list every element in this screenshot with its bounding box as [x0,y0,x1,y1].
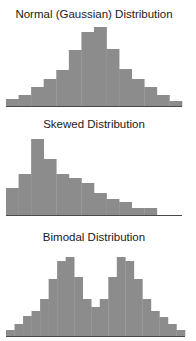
histogram-bar [81,183,94,215]
histogram-bar [144,87,157,106]
histogram-bar [44,79,57,106]
bimodal-histogram [6,257,185,337]
histogram-bar [132,79,145,106]
histogram-bar [19,174,32,215]
histogram-bar [119,69,132,106]
histogram-bar [23,316,32,336]
histogram-bar [94,193,107,215]
normal-histogram [6,27,182,107]
histogram-bar [74,277,83,336]
histogram-bar [159,317,168,336]
histogram-bar [83,299,92,336]
histogram-bar [108,277,117,336]
histogram-bar [56,70,69,106]
histogram-bar [31,87,44,106]
histogram-bar [142,299,151,336]
histogram-bar [56,174,69,215]
histogram-bar [132,208,145,215]
histogram-bar [31,139,44,215]
histogram-bar [117,257,126,336]
histogram-bar [69,50,82,106]
histogram-bar [169,101,182,106]
histogram-bar [144,208,157,215]
histogram-bar [6,99,19,106]
histogram-bar [44,159,57,215]
histogram-bar [91,307,100,336]
histogram-bar [6,330,15,336]
histogram-bar [40,299,49,336]
histogram-bar [157,95,170,106]
histogram-bar [49,279,58,336]
histogram-plots [0,0,196,341]
histogram-bar [134,279,143,336]
histogram-bar [81,32,94,106]
histogram-bar [19,95,32,106]
histogram-bar [94,27,107,106]
skewed-histogram [6,139,182,216]
histogram-bar [15,324,24,336]
histogram-bar [119,202,132,215]
histogram-bar [107,49,120,106]
histogram-bar [6,188,19,215]
histogram-bar [57,261,66,336]
histogram-bar [69,178,82,215]
histogram-bar [107,199,120,215]
histogram-bar [125,261,134,336]
histogram-bar [168,324,177,336]
histogram-bar [66,257,75,336]
histogram-bar [176,330,185,336]
histogram-bar [151,311,160,336]
histogram-bar [32,311,41,336]
histogram-bar [100,299,109,336]
